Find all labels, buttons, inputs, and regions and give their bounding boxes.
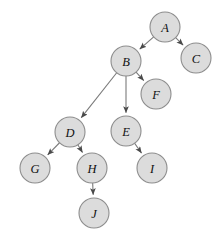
node-i[interactable]: I (137, 153, 167, 183)
node-b[interactable]: B (111, 46, 141, 76)
node-circle-c[interactable] (181, 43, 211, 73)
edge-d-to-g (48, 143, 60, 155)
node-a[interactable]: A (150, 12, 180, 42)
edge-a-to-b (140, 37, 154, 49)
graph-canvas: ABCFDEGHIJ (0, 0, 220, 242)
node-circle-d[interactable] (55, 117, 85, 147)
node-circle-h[interactable] (77, 153, 107, 183)
node-h[interactable]: H (77, 153, 107, 183)
node-circle-f[interactable] (141, 79, 171, 109)
edge-e-to-i (135, 143, 142, 153)
node-c[interactable]: C (181, 43, 211, 73)
node-circle-b[interactable] (111, 46, 141, 76)
edge-d-to-h (78, 145, 83, 153)
edge-b-to-f (136, 72, 144, 80)
edge-h-to-j (93, 183, 94, 195)
node-circle-j[interactable] (79, 198, 109, 228)
node-f[interactable]: F (141, 79, 171, 109)
edge-a-to-c (176, 38, 184, 46)
node-circle-a[interactable] (150, 12, 180, 42)
node-e[interactable]: E (111, 116, 141, 146)
node-circle-e[interactable] (111, 116, 141, 146)
node-d[interactable]: D (55, 117, 85, 147)
node-circle-i[interactable] (137, 153, 167, 183)
node-g[interactable]: G (20, 153, 50, 183)
edge-b-to-d (81, 73, 116, 118)
node-j[interactable]: J (79, 198, 109, 228)
node-circle-g[interactable] (20, 153, 50, 183)
graph-svg: ABCFDEGHIJ (0, 0, 220, 242)
